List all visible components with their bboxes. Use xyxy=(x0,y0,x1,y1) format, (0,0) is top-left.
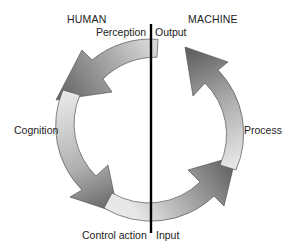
label-process: Process xyxy=(244,124,282,136)
label-cognition: Cognition xyxy=(14,124,58,136)
label-output: Output xyxy=(155,26,187,38)
label-control-action: Control action xyxy=(82,229,147,241)
arrow-process-to-output xyxy=(185,47,244,170)
human-header: HUMAN xyxy=(67,13,107,25)
arrow-input-to-process xyxy=(104,156,236,221)
machine-header: MACHINE xyxy=(188,13,238,25)
label-input: Input xyxy=(156,229,179,241)
arrow-cognition-to-control-action xyxy=(56,90,118,213)
arrow-perception-to-cognition xyxy=(56,39,158,100)
label-perception: Perception xyxy=(96,26,146,38)
